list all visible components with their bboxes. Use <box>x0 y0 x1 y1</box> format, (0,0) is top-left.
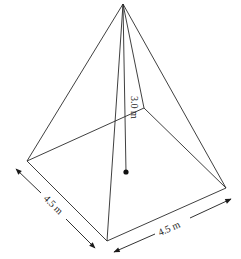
lateral-edge-left <box>27 4 123 161</box>
pyramid-diagram: 3.0 m 4.5 m 4.5 m <box>0 0 241 259</box>
height-line <box>123 4 126 172</box>
base-edge-left-back <box>27 108 144 161</box>
base-right-side-label: 4.5 m <box>156 218 181 237</box>
dimension-left-arrow-upper <box>16 169 41 193</box>
dimension-right: 4.5 m <box>114 199 231 252</box>
base-center-point <box>123 169 128 174</box>
lateral-edge-back <box>123 4 144 108</box>
height-label: 3.0 m <box>129 96 140 119</box>
lateral-edge-front <box>107 4 123 241</box>
dimension-left-arrow-lower <box>66 219 95 248</box>
base-edge-back-right <box>144 108 226 188</box>
base-edge-left-front <box>27 161 107 241</box>
dimension-right-arrow-right <box>190 199 231 218</box>
dimension-right-arrow-left <box>114 234 155 252</box>
dimension-left: 4.5 m <box>16 169 95 248</box>
